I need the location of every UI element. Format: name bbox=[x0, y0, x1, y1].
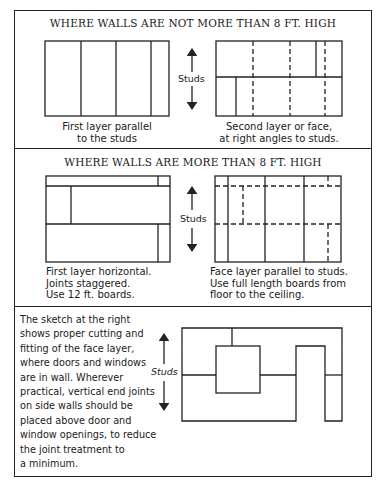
first-layer-parallel-diagram bbox=[45, 41, 169, 116]
wall-with-openings-diagram bbox=[182, 328, 342, 421]
section-2-left-caption: First layer horizontal.Joints staggered.… bbox=[46, 266, 152, 301]
window-opening bbox=[216, 346, 260, 393]
section-2-right-caption: Face layer parallel to studs.Use full le… bbox=[210, 266, 348, 301]
section-2-title: WHERE WALLS ARE MORE THAN 8 FT. HIGH bbox=[14, 156, 372, 168]
studs-label-2: Studs bbox=[180, 213, 207, 224]
face-layer-parallel-diagram bbox=[215, 176, 341, 262]
section-3-description: The sketch at the right shows proper cut… bbox=[20, 313, 155, 471]
section-1-right-caption: Second layer or face,at right angles to … bbox=[205, 121, 353, 144]
studs-label-3: Studs bbox=[151, 366, 178, 377]
second-layer-right-angles-diagram bbox=[216, 41, 342, 116]
first-layer-horizontal-diagram bbox=[46, 176, 170, 262]
section-1-left-caption: First layer parallelto the studs bbox=[45, 121, 169, 144]
studs-label-1: Studs bbox=[178, 73, 205, 84]
